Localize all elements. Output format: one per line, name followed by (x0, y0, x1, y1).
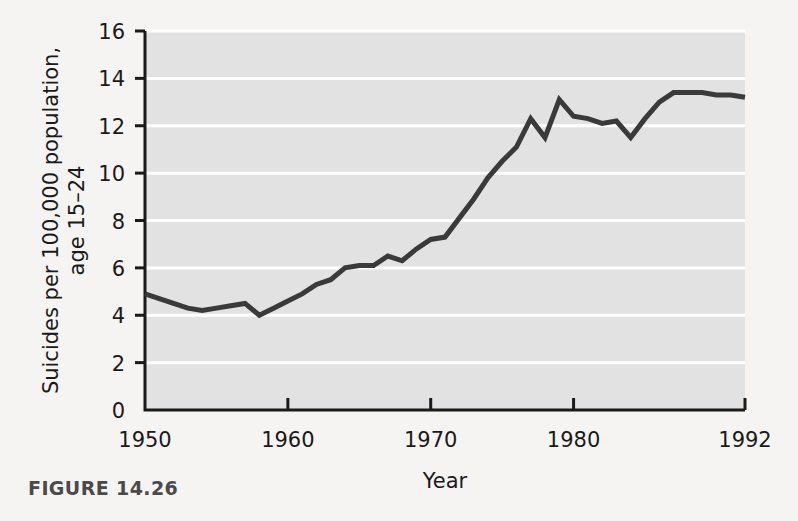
x-tick-label: 1970 (404, 428, 457, 452)
y-tick-label: 12 (98, 115, 125, 139)
y-tick-label: 0 (112, 399, 125, 423)
y-tick-label: 14 (98, 67, 125, 91)
y-axis-title-line2: age 15–24 (65, 166, 89, 276)
x-tick-label: 1980 (547, 428, 600, 452)
y-tick-label: 2 (112, 352, 125, 376)
y-tick-label: 8 (112, 210, 125, 234)
x-axis-tick-labels: 19501960197019801992 (118, 428, 771, 452)
y-tick-label: 10 (98, 162, 125, 186)
line-chart: 0246810121416 19501960197019801992 Year … (0, 0, 798, 521)
y-tick-label: 4 (112, 304, 125, 328)
figure-caption: FIGURE 14.26 (28, 477, 178, 499)
y-axis-title-line1: Suicides per 100,000 population, (39, 47, 63, 394)
y-tick-label: 16 (98, 20, 125, 44)
x-axis-title: Year (422, 469, 468, 493)
x-tick-label: 1960 (261, 428, 314, 452)
y-tick-label: 6 (112, 257, 125, 281)
x-tick-label: 1950 (118, 428, 171, 452)
y-axis-tick-labels: 0246810121416 (98, 20, 125, 423)
x-tick-label: 1992 (718, 428, 771, 452)
figure-container: 0246810121416 19501960197019801992 Year … (0, 0, 798, 521)
y-axis-title: Suicides per 100,000 population, age 15–… (39, 47, 89, 394)
